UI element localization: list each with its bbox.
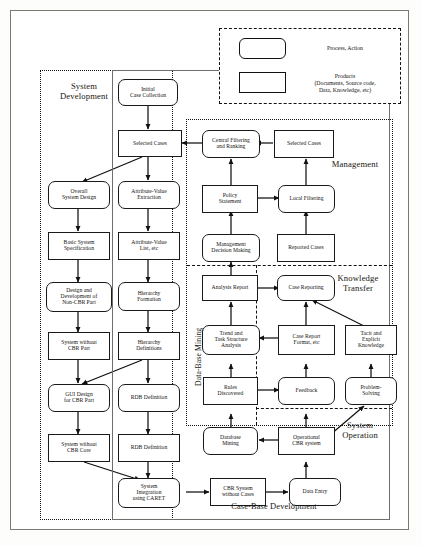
divider-knowledge-operation xyxy=(256,408,392,409)
legend-product-shape xyxy=(239,72,286,93)
node-system-without-cbr-core[interactable]: System withoutCBR Core xyxy=(48,434,110,462)
legend-product-label: Products (Documents, Source code, Data, … xyxy=(294,73,396,95)
label-knowledge-transfer-line2: Transfer xyxy=(326,284,390,294)
node-system-without-cbr-core-label: System withoutCBR Core xyxy=(50,442,108,453)
node-trend-task-structure-analysis[interactable]: Trend andTask StructureAnalysis xyxy=(202,325,260,355)
node-rdb-definition-1-label: RDB Definition xyxy=(120,395,178,401)
diagram-canvas: System Development Management Knowledge … xyxy=(0,0,421,546)
node-overall-system-design[interactable]: OverallSystem Design xyxy=(48,181,110,209)
node-problem-solving[interactable]: Problem-Solving xyxy=(345,377,397,405)
node-attribute-value-list[interactable]: Attribute-ValueList, etc xyxy=(118,232,180,260)
node-problem-solving-label: Problem-Solving xyxy=(347,385,395,396)
node-feedback-label: Feedback xyxy=(280,388,333,394)
node-selected-cases-left[interactable]: Selected Cases xyxy=(118,130,182,157)
node-local-filtering[interactable]: Local Filtering xyxy=(278,185,335,213)
node-selected-cases-right[interactable]: Selected Cases xyxy=(274,130,334,158)
node-management-decision-making-label: ManagementDecision Making xyxy=(204,242,258,253)
node-tacit-explicit-knowledge[interactable]: Tacit andExplicitKnowledge xyxy=(345,325,397,355)
node-database-mining-label: DatabaseMining xyxy=(205,435,256,446)
node-hierarchy-formation-label: HierarchyFormation xyxy=(120,291,178,302)
label-system-development-line2: Development xyxy=(46,92,122,102)
node-basic-system-specification-label: Basic SystemSpecification xyxy=(50,240,108,251)
node-attribute-value-extraction-label: Attribute-ValueExtraction xyxy=(120,189,178,200)
node-feedback[interactable]: Feedback xyxy=(278,377,335,405)
node-local-filtering-label: Local Filtering xyxy=(280,196,333,202)
node-system-integration-caret[interactable]: SystemIntegrationusing CARET xyxy=(118,478,180,508)
label-case-base-development: Case-Base Development xyxy=(204,502,344,511)
node-rules-discovered-label: RulesDiscovered xyxy=(205,385,256,396)
node-hierarchy-definitions-label: HierarchyDefinitions xyxy=(120,340,178,351)
node-central-filtering-ranking-label: Central Filteringand Ranking xyxy=(204,138,258,149)
legend-process-label: Process, Action xyxy=(302,45,388,52)
label-knowledge-transfer: Knowledge Transfer xyxy=(326,274,390,293)
legend-process-shape xyxy=(239,38,286,59)
node-analysis-report-label: Analysis Report xyxy=(204,285,256,291)
node-operational-cbr-system[interactable]: OperationalCBR system xyxy=(278,427,335,455)
label-data-base-mining: Data-Base Mining xyxy=(195,328,204,386)
node-rdb-definition-2-label: RDB Definition xyxy=(120,445,178,451)
node-case-reporting-label: Case Reporting xyxy=(279,285,333,291)
node-initial-case-collection-label: InitialCase Collection xyxy=(120,87,176,98)
node-reported-cases[interactable]: Reported Cases xyxy=(277,234,335,262)
label-management: Management xyxy=(320,160,390,170)
node-reported-cases-label: Reported Cases xyxy=(279,245,333,251)
node-operational-cbr-system-label: OperationalCBR system xyxy=(280,435,333,446)
legend-product-line1: Products xyxy=(294,73,396,80)
divider-management-knowledge xyxy=(187,265,392,266)
node-rdb-definition-1[interactable]: RDB Definition xyxy=(118,384,180,412)
node-management-decision-making[interactable]: ManagementDecision Making xyxy=(202,234,260,262)
node-rdb-definition-2[interactable]: RDB Definition xyxy=(118,434,180,462)
node-initial-case-collection[interactable]: InitialCase Collection xyxy=(118,79,178,106)
node-database-mining[interactable]: DatabaseMining xyxy=(203,427,258,455)
node-analysis-report[interactable]: Analysis Report xyxy=(202,275,258,301)
node-policy-statement[interactable]: PolicyStatement xyxy=(202,185,258,213)
node-attribute-value-extraction[interactable]: Attribute-ValueExtraction xyxy=(118,181,180,209)
node-gui-design-for-cbr-part[interactable]: GUI Designfor CBR Part xyxy=(48,384,110,412)
node-selected-cases-left-label: Selected Cases xyxy=(120,141,180,147)
node-basic-system-specification[interactable]: Basic SystemSpecification xyxy=(48,232,110,260)
node-tacit-explicit-knowledge-label: Tacit andExplicitKnowledge xyxy=(347,331,395,348)
node-design-development-non-cbr[interactable]: Design andDevelopment ofNon-CBR Part xyxy=(46,282,112,312)
node-design-development-non-cbr-label: Design andDevelopment ofNon-CBR Part xyxy=(48,288,110,305)
node-case-report-format-label: Case ReportFormat, etc xyxy=(280,334,333,345)
node-policy-statement-label: PolicyStatement xyxy=(204,193,256,204)
node-cbr-system-without-cases-label: CBR Systemwithout Cases xyxy=(212,486,264,497)
label-system-operation: System Operation xyxy=(330,421,390,440)
node-system-without-cbr-part[interactable]: System withoutCBR Part xyxy=(48,332,110,360)
node-overall-system-design-label: OverallSystem Design xyxy=(50,189,108,200)
node-central-filtering-ranking[interactable]: Central Filteringand Ranking xyxy=(202,130,260,158)
label-system-development: System Development xyxy=(46,82,122,101)
node-trend-task-structure-analysis-label: Trend andTask StructureAnalysis xyxy=(204,331,258,348)
node-hierarchy-formation[interactable]: HierarchyFormation xyxy=(118,282,180,311)
label-system-operation-line2: Operation xyxy=(330,431,390,441)
legend-box: Process, Action Products (Documents, Sou… xyxy=(219,28,401,104)
node-gui-design-for-cbr-part-label: GUI Designfor CBR Part xyxy=(50,392,108,403)
legend-product-line3: Data, Knowledge, etc) xyxy=(294,87,396,94)
legend-product-line2: (Documents, Source code, xyxy=(294,80,396,87)
node-hierarchy-definitions[interactable]: HierarchyDefinitions xyxy=(118,332,180,360)
node-system-integration-caret-label: SystemIntegrationusing CARET xyxy=(120,484,178,501)
node-data-entry-label: Data Entry xyxy=(291,489,339,495)
node-system-without-cbr-part-label: System withoutCBR Part xyxy=(50,340,108,351)
node-case-report-format[interactable]: Case ReportFormat, etc xyxy=(278,325,335,355)
node-rules-discovered[interactable]: RulesDiscovered xyxy=(203,377,258,405)
node-attribute-value-list-label: Attribute-ValueList, etc xyxy=(120,240,178,251)
node-selected-cases-right-label: Selected Cases xyxy=(276,141,332,147)
